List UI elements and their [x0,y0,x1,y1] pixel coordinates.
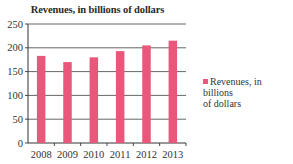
bar-2009 [63,62,72,143]
x-tick-label: 2008 [31,149,52,160]
y-tick-label: 150 [7,66,23,77]
bar-2012 [142,45,151,143]
x-tick-label: 2012 [136,149,157,160]
x-tick-label: 2013 [162,149,183,160]
x-tick-label: 2011 [110,149,131,160]
legend-swatch [203,79,208,84]
bar-2008 [37,56,46,143]
legend: Revenues, in billions of dollars [203,76,293,109]
y-tick-label: 100 [7,90,23,101]
y-tick-label: 0 [18,138,23,149]
bar-2011 [116,51,125,143]
x-tick-label: 2009 [57,149,78,160]
legend-label-line1: Revenues, in billions [203,76,262,98]
bar-chart: 050100150200250200820092010201120122013 [0,0,200,164]
x-tick-label: 2010 [83,149,104,160]
legend-label-line2: of dollars [203,98,241,109]
y-tick-label: 50 [13,114,24,125]
bar-2010 [90,57,99,143]
bar-2013 [169,41,178,143]
y-tick-label: 250 [7,19,23,30]
y-tick-label: 200 [7,42,23,53]
